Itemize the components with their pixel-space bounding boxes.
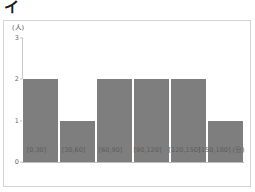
figure-marker: イ — [4, 0, 19, 15]
x-axis-tick-label: [90,120] — [129, 146, 166, 155]
x-axis-bin-range: [0,30] — [27, 146, 47, 154]
x-axis-bin-range: [120,150] — [169, 146, 201, 154]
x-axis-unit-label: (分) — [232, 146, 244, 154]
x-axis-tick-label: [150,180](分) — [197, 146, 246, 155]
plot-area: 0123 — [22, 38, 244, 163]
y-axis-tick-label: 1 — [15, 117, 19, 124]
x-axis-bin-range: [30,60] — [62, 146, 86, 154]
x-axis-tick-label: [0,30] — [18, 146, 55, 155]
y-axis-tick-label: 0 — [15, 159, 19, 166]
x-axis-labels: [0,30][30,60][60,90][90,120][120,150][15… — [18, 146, 240, 158]
x-axis-bin-range: [60,90] — [99, 146, 123, 154]
x-axis-bin-range: [150,180] — [198, 146, 230, 154]
x-axis-tick-label: [30,60] — [55, 146, 92, 155]
bars-layer — [22, 38, 244, 163]
chart-frame: (人) 0123 — [3, 20, 251, 187]
x-axis-bin-range: [90,120] — [134, 146, 162, 154]
y-axis-tick-label: 3 — [15, 35, 19, 42]
x-axis-tick-label: [60,90] — [92, 146, 129, 155]
y-axis-tick-label: 2 — [15, 76, 19, 83]
y-axis-unit-label: (人) — [12, 25, 24, 32]
